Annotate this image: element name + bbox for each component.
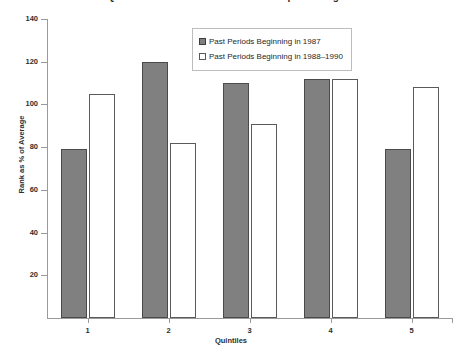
y-axis-tick-label: 120 (0, 58, 38, 66)
y-axis-tick-label: 80 (0, 143, 38, 151)
y-axis-tick-label: 60 (0, 186, 38, 194)
y-axis-tick-label: 140 (0, 15, 38, 23)
x-axis-title: Quintiles (0, 336, 462, 345)
x-axis-tick-label: 3 (230, 327, 270, 335)
chart-title: Quintile Rank Persistence of Municipal M… (0, 0, 462, 2)
x-axis-tick (88, 318, 89, 323)
chart-legend: Past Periods Beginning in 1987 Past Peri… (192, 28, 352, 71)
x-axis-tick (412, 318, 413, 323)
y-axis-tick-label: 20 (0, 271, 38, 279)
legend-item-1988-1990: Past Periods Beginning in 1988–1990 (199, 49, 343, 64)
legend-label: Past Periods Beginning in 1987 (209, 37, 321, 46)
x-axis-tick-label: 2 (149, 327, 189, 335)
bar-q4-series1 (304, 79, 330, 318)
x-axis-tick-label: 5 (392, 327, 432, 335)
x-axis-tick (250, 318, 251, 323)
legend-swatch-icon (199, 53, 206, 60)
bar-q1-series2 (89, 94, 115, 318)
y-axis-tick-label: 40 (0, 229, 38, 237)
bar-chart: Quintile Rank Persistence of Municipal M… (0, 0, 462, 351)
y-axis-title: Rank as % of Average (17, 95, 26, 215)
bar-q5-series1 (385, 149, 411, 318)
legend-item-1987: Past Periods Beginning in 1987 (199, 34, 343, 49)
x-axis-tick-label: 1 (68, 327, 108, 335)
bar-q4-series2 (332, 79, 358, 318)
legend-label: Past Periods Beginning in 1988–1990 (209, 52, 343, 61)
bar-q3-series1 (223, 83, 249, 318)
x-axis-tick-label: 4 (311, 327, 351, 335)
x-axis-end-tick (452, 318, 453, 323)
bar-q1-series1 (61, 149, 87, 318)
x-axis-tick (169, 318, 170, 323)
bar-q2-series2 (170, 143, 196, 318)
bar-q5-series2 (413, 87, 439, 318)
bar-q2-series1 (142, 62, 168, 318)
y-axis-tick-label: 100 (0, 100, 38, 108)
x-axis-tick (331, 318, 332, 323)
bar-q3-series2 (251, 124, 277, 318)
legend-swatch-icon (199, 38, 206, 45)
